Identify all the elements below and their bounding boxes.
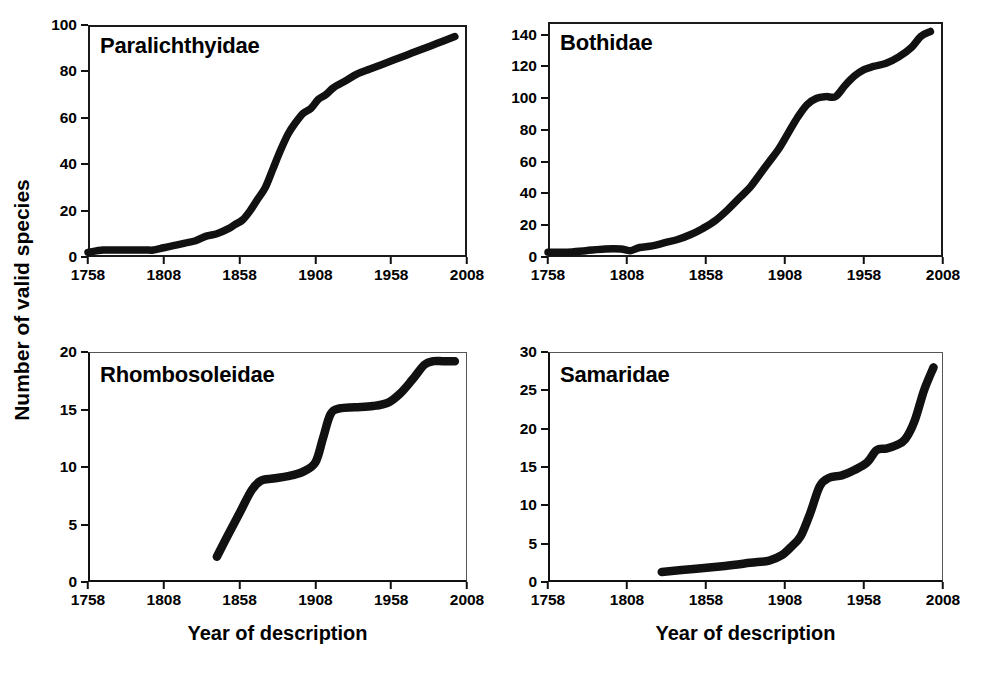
x-tick-label: 1908 (768, 266, 802, 284)
y-tick-label: 20 (60, 343, 81, 361)
accumulation-curve-path (662, 367, 934, 572)
x-tick-mark (942, 582, 944, 589)
x-tick-label: 1758 (531, 591, 565, 609)
x-tick-label: 1808 (147, 591, 181, 609)
x-tick-label: 1758 (71, 266, 105, 284)
y-tick-mark (81, 210, 88, 212)
x-tick-label: 1858 (222, 591, 256, 609)
y-tick-mark (541, 97, 548, 99)
y-tick-label: 40 (520, 184, 541, 202)
y-tick-label: 120 (511, 57, 541, 75)
y-tick-label: 80 (60, 62, 81, 80)
x-tick-mark (784, 582, 786, 589)
y-tick-label: 15 (60, 401, 81, 419)
panel-paralichthyidae: Paralichthyidae 020406080100175818081858… (0, 0, 492, 300)
x-tick-mark (863, 257, 865, 264)
y-tick-mark (81, 524, 88, 526)
accumulation-curve-path (217, 361, 455, 557)
y-tick-label: 10 (60, 458, 81, 476)
y-tick-mark (541, 543, 548, 545)
y-tick-label: 40 (60, 155, 81, 173)
y-tick-label: 25 (520, 381, 541, 399)
y-tick-mark (81, 351, 88, 353)
panel-bothidae: Bothidae 0204060801001201401758180818581… (492, 0, 984, 300)
x-tick: 1808 (147, 257, 181, 284)
y-tick-mark (541, 389, 548, 391)
y-tick-label: 60 (520, 153, 541, 171)
y-tick-label: 20 (520, 216, 541, 234)
y-tick-mark (81, 70, 88, 72)
x-tick-mark (466, 582, 468, 589)
x-tick-mark (705, 582, 707, 589)
x-tick-label: 2008 (450, 591, 484, 609)
x-tick-label: 2008 (450, 266, 484, 284)
x-tick-mark (390, 582, 392, 589)
x-tick: 1858 (222, 257, 256, 284)
x-tick-mark (163, 582, 165, 589)
x-tick-mark (87, 257, 89, 264)
x-tick-label: 1958 (847, 591, 881, 609)
y-tick-label: 100 (511, 89, 541, 107)
x-tick-mark (239, 582, 241, 589)
y-tick-label: 100 (51, 16, 81, 34)
x-tick-label: 1908 (298, 266, 332, 284)
x-tick: 1808 (147, 582, 181, 609)
species-accumulation-figure: Number of valid species Paralichthyidae … (0, 0, 984, 681)
x-tick: 1858 (689, 582, 723, 609)
x-tick-label: 1858 (689, 266, 723, 284)
y-tick-mark (81, 117, 88, 119)
y-tick-mark (81, 466, 88, 468)
x-tick-mark (626, 257, 628, 264)
x-tick-mark (314, 582, 316, 589)
x-tick-mark (863, 582, 865, 589)
x-tick: 1908 (298, 257, 332, 284)
x-tick: 1958 (374, 257, 408, 284)
panel-samaridae: Samaridae Year of description 0510152025… (492, 330, 984, 681)
x-tick-label: 1958 (847, 266, 881, 284)
x-tick-mark (547, 257, 549, 264)
y-tick-mark (541, 192, 548, 194)
x-tick-label: 1758 (71, 591, 105, 609)
x-tick: 2008 (450, 582, 484, 609)
y-tick-label: 20 (60, 202, 81, 220)
x-tick-label: 2008 (926, 591, 960, 609)
x-tick-mark (163, 257, 165, 264)
x-tick-mark (466, 257, 468, 264)
x-tick: 2008 (926, 257, 960, 284)
y-tick-mark (81, 409, 88, 411)
x-tick: 1908 (768, 582, 802, 609)
x-tick: 1958 (374, 582, 408, 609)
x-tick: 2008 (926, 582, 960, 609)
x-tick: 1858 (222, 582, 256, 609)
x-tick-mark (942, 257, 944, 264)
y-tick-mark (541, 224, 548, 226)
x-tick: 1958 (847, 257, 881, 284)
y-tick-label: 20 (520, 420, 541, 438)
x-tick-mark (314, 257, 316, 264)
x-tick-label: 1808 (610, 266, 644, 284)
y-tick-label: 10 (520, 496, 541, 514)
x-axis-title-left: Year of description (88, 622, 467, 645)
x-tick-mark (87, 582, 89, 589)
y-tick-label: 80 (520, 121, 541, 139)
y-tick-mark (541, 504, 548, 506)
accumulation-curve-path (88, 37, 455, 253)
x-tick: 1908 (768, 257, 802, 284)
x-tick: 1808 (610, 257, 644, 284)
y-tick-mark (541, 161, 548, 163)
x-tick-label: 1808 (147, 266, 181, 284)
y-tick-mark (541, 428, 548, 430)
y-tick-mark (541, 466, 548, 468)
x-tick-mark (705, 257, 707, 264)
x-tick: 1808 (610, 582, 644, 609)
x-tick: 1758 (531, 257, 565, 284)
x-tick: 1908 (298, 582, 332, 609)
x-tick-label: 2008 (926, 266, 960, 284)
x-tick: 1958 (847, 582, 881, 609)
x-tick-label: 1958 (374, 591, 408, 609)
x-tick-mark (390, 257, 392, 264)
y-tick-label: 5 (68, 516, 81, 534)
panel-rhombosoleidae: Rhombosoleidae Year of description 05101… (0, 330, 492, 681)
x-tick-label: 1758 (531, 266, 565, 284)
x-tick: 2008 (450, 257, 484, 284)
